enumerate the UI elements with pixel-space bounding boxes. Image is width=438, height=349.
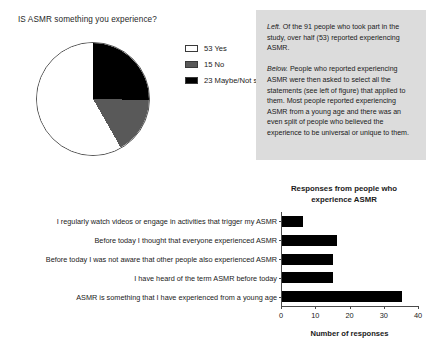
caption-text-left: Of the 91 people who took part in the st… [267, 23, 400, 52]
x-axis-tick-label: 40 [414, 311, 422, 320]
x-axis-tick-label: 20 [345, 311, 353, 320]
bar [282, 272, 333, 283]
category-tick [279, 297, 282, 298]
legend-label-no: 15 No [204, 60, 224, 69]
legend-label-yes: 53 Yes [204, 44, 227, 53]
bar-row: Before today I thought that everyone exp… [282, 235, 419, 246]
category-label: Before today I was not aware that other … [46, 255, 277, 264]
caption-paragraph-below: Below. People who reported experiencing … [267, 64, 415, 138]
pie-wedges [37, 43, 149, 155]
x-axis-tick-label: 0 [279, 311, 283, 320]
bar-row: Before today I was not aware that other … [282, 254, 419, 265]
category-tick [279, 221, 282, 222]
caption-text-below: People who reported experiencing ASMR we… [267, 65, 409, 137]
bar-chart-title: Responses from people who experience ASM… [262, 183, 426, 205]
white-swatch-icon [185, 45, 198, 52]
bar-row: ASMR is something that I have experience… [282, 291, 419, 302]
bar [282, 291, 402, 302]
x-axis-tick [315, 306, 316, 309]
bar [282, 254, 333, 265]
x-axis-tick [418, 306, 419, 309]
caption-lead-below: Below. [267, 65, 288, 73]
bar-row: I have heard of the term ASMR before tod… [282, 272, 419, 283]
x-axis-tick [281, 306, 282, 309]
x-axis-tick [384, 306, 385, 309]
x-axis-tick-label: 30 [380, 311, 388, 320]
plot-area: I regularly watch videos or engage in ac… [281, 212, 418, 306]
category-label: ASMR is something that I have experience… [76, 292, 277, 301]
bar-row: I regularly watch videos or engage in ac… [282, 216, 419, 227]
pie-heading: IS ASMR something you experience? [18, 15, 157, 24]
x-axis-title: Number of responses [281, 329, 418, 338]
black-swatch-icon [185, 77, 198, 84]
bar-chart-title-line2: experience ASMR [262, 194, 426, 205]
bar [282, 216, 303, 227]
bar [282, 235, 337, 246]
category-tick [279, 278, 282, 279]
x-axis-tick-label: 10 [311, 311, 319, 320]
bar-chart-title-line1: Responses from people who [262, 183, 426, 194]
gray-swatch-icon [185, 61, 198, 68]
category-label: I regularly watch videos or engage in ac… [57, 217, 277, 226]
bar-chart: I regularly watch videos or engage in ac… [0, 212, 438, 312]
pie-chart-figure [36, 42, 150, 156]
category-label: I have heard of the term ASMR before tod… [134, 273, 277, 282]
caption-lead-left: Left. [267, 23, 281, 31]
category-label: Before today I thought that everyone exp… [94, 236, 277, 245]
x-axis-tick [350, 306, 351, 309]
category-tick [279, 240, 282, 241]
caption-panel: Left. Of the 91 people who took part in … [256, 10, 426, 160]
caption-paragraph-left: Left. Of the 91 people who took part in … [267, 22, 415, 54]
category-tick [279, 259, 282, 260]
pie-circle [36, 42, 150, 156]
